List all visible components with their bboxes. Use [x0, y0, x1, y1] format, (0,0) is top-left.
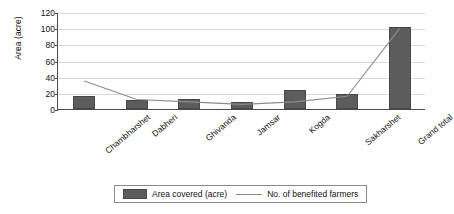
y-axis-tick-label: 20: [46, 90, 55, 99]
y-axis-title: Area (acre): [13, 0, 23, 78]
x-axis-tick-label: Grand total: [416, 112, 454, 147]
legend-bar-label: Area covered (acre): [152, 189, 227, 199]
x-axis-tick-label: Sakharshet: [363, 112, 402, 147]
y-axis-tick-label: 40: [46, 73, 55, 82]
x-axis-tick-label: Kogda: [306, 112, 331, 135]
plot-area: 020406080100120: [57, 13, 425, 110]
x-axis-tick-label: Chambharshet: [103, 112, 152, 156]
y-axis-tick-label: 60: [46, 57, 55, 66]
y-axis-tick-label: 80: [46, 41, 55, 50]
line-series: [58, 13, 426, 110]
legend-item-line: No. of benefited farmers: [236, 189, 358, 199]
x-axis-tick-label: Jamsar: [255, 112, 283, 138]
chart-legend: Area covered (acre) No. of benefited far…: [114, 185, 367, 203]
legend-line-label: No. of benefited farmers: [267, 189, 358, 199]
x-axis-tick-label: Dabheri: [150, 112, 179, 139]
legend-item-bar: Area covered (acre): [123, 189, 227, 199]
legend-bar-swatch-icon: [123, 189, 147, 199]
legend-line-swatch-icon: [236, 194, 262, 195]
y-axis-tick-label: 100: [41, 25, 55, 34]
x-axis-labels: ChambharshetDabheriGhivandaJamsarKogdaSa…: [57, 112, 425, 174]
x-axis-tick-label: Ghivanda: [204, 112, 238, 143]
y-axis-tick-label: 120: [41, 9, 55, 18]
y-axis-tick-mark: [55, 110, 58, 111]
line-path: [84, 28, 399, 104]
